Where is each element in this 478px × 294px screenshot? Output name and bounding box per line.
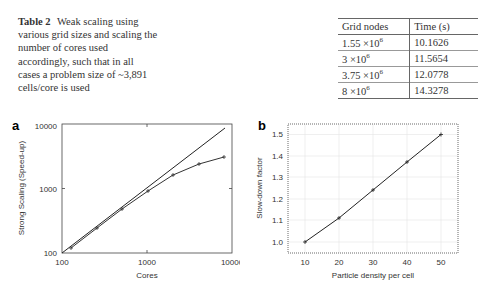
svg-text:1.2: 1.2 <box>272 195 284 204</box>
measured-line <box>71 157 224 248</box>
table-row: 8 ×106 14.3278 <box>338 83 478 99</box>
time-cell: 14.3278 <box>410 83 478 99</box>
time-cell: 11.5654 <box>410 51 478 67</box>
svg-text:1.1: 1.1 <box>272 216 284 225</box>
panel-label-a: a <box>12 118 20 133</box>
svg-text:10000: 10000 <box>35 122 58 131</box>
grid-nodes-cell: 3 ×106 <box>338 51 410 67</box>
svg-text:40: 40 <box>403 258 412 267</box>
table-row: 1.55 ×106 10.1626 <box>338 35 478 51</box>
svg-text:1.0: 1.0 <box>272 238 284 247</box>
svg-text:10: 10 <box>301 258 310 267</box>
svg-text:1.4: 1.4 <box>272 152 284 161</box>
table-row: 3.75 ×106 12.0778 <box>338 67 478 83</box>
svg-text:100: 100 <box>55 258 69 267</box>
grid-nodes-cell: 3.75 ×106 <box>338 67 410 83</box>
svg-text:50: 50 <box>437 258 446 267</box>
panel-label-b: b <box>258 118 266 133</box>
ideal-line <box>62 128 225 253</box>
weak-scaling-table: Grid nodes Time (s) 1.55 ×106 10.1626 3 … <box>338 18 478 99</box>
caption-label: Table 2 <box>18 16 51 27</box>
measured-markers <box>69 155 226 250</box>
svg-text:100: 100 <box>44 249 58 258</box>
grid-nodes-cell: 1.55 ×106 <box>338 35 410 51</box>
time-cell: 10.1626 <box>410 35 478 51</box>
y-axis-label: Slow-down factor <box>255 157 264 219</box>
header-time: Time (s) <box>410 19 478 35</box>
caption-text: Weak scaling using various grid sizes an… <box>18 16 157 93</box>
chart-b-slowdown: b 1.0 1.1 1.2 1.3 1.4 1.5 10 20 30 40 50… <box>240 110 478 294</box>
chart-a-strong-scaling: a 10000 1000 100 100 1000 10000 Cores St… <box>0 110 240 294</box>
table-caption: Table 2 Weak scaling using various grid … <box>18 15 158 94</box>
table-row: 3 ×106 11.5654 <box>338 51 478 67</box>
svg-text:30: 30 <box>369 258 378 267</box>
x-axis-label: Cores <box>136 271 157 280</box>
y-axis-label: Strong Scaling (Speed-up) <box>17 141 26 236</box>
table-header-row: Grid nodes Time (s) <box>338 19 478 35</box>
grid-nodes-cell: 8 ×106 <box>338 83 410 99</box>
svg-text:1000: 1000 <box>39 185 57 194</box>
svg-text:20: 20 <box>335 258 344 267</box>
time-cell: 12.0778 <box>410 67 478 83</box>
svg-text:10000: 10000 <box>221 258 240 267</box>
svg-text:1.3: 1.3 <box>272 173 284 182</box>
x-axis-label: Particle density per cell <box>332 271 414 280</box>
svg-text:1000: 1000 <box>138 258 156 267</box>
header-grid-nodes: Grid nodes <box>338 19 410 35</box>
svg-text:1.5: 1.5 <box>272 130 284 139</box>
